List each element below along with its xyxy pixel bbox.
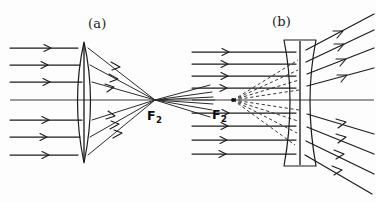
incoming-rays-a — [10, 45, 82, 159]
panel-b-label: (b) — [272, 14, 291, 29]
focal-point-subscript-b: 2 — [221, 114, 227, 124]
focal-point-a: F 2 — [147, 108, 162, 125]
panel-b-group: (b) — [192, 14, 374, 194]
optics-figure: (a) — [0, 0, 376, 202]
virtual-ray — [233, 100, 299, 110]
arrow-head-icon — [332, 166, 342, 175]
converging-lens — [78, 42, 91, 163]
arrow-head-icon — [334, 150, 344, 159]
arrow-head-icon — [105, 84, 114, 92]
virtual-ray — [233, 90, 299, 100]
virtual-ray — [233, 70, 298, 100]
panel-a-label: (a) — [88, 16, 107, 31]
arrow-head-icon — [111, 62, 120, 70]
outgoing-ray — [305, 155, 372, 194]
post-focal-rays-a — [155, 85, 213, 117]
refracted-ray — [92, 82, 155, 100]
focal-point-label-b: F — [212, 107, 221, 122]
focal-point-subscript-a: 2 — [156, 115, 162, 125]
refracted-ray — [90, 65, 155, 100]
panel-a-group: (a) — [10, 16, 215, 163]
focal-point-b: F 2 — [212, 98, 235, 124]
virtual-ray — [233, 100, 297, 133]
refracted-ray — [88, 48, 155, 100]
outgoing-ray — [306, 14, 374, 50]
refracted-ray — [92, 100, 155, 120]
virtual-ray — [233, 100, 298, 121]
focal-point-dot — [231, 98, 235, 102]
figure-canvas: (a) — [0, 0, 376, 202]
focal-point-label-a: F — [147, 108, 156, 123]
converging-rays-a — [88, 48, 155, 155]
refracted-ray — [90, 100, 155, 137]
virtual-ray — [233, 100, 295, 145]
refracted-ray — [88, 100, 155, 155]
incoming-rays-b — [192, 49, 296, 158]
